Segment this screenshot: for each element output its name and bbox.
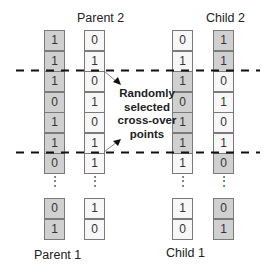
- arrow-icon: [104, 71, 121, 85]
- crossover-lines: [0, 0, 268, 271]
- arrow-icon: [104, 139, 121, 152]
